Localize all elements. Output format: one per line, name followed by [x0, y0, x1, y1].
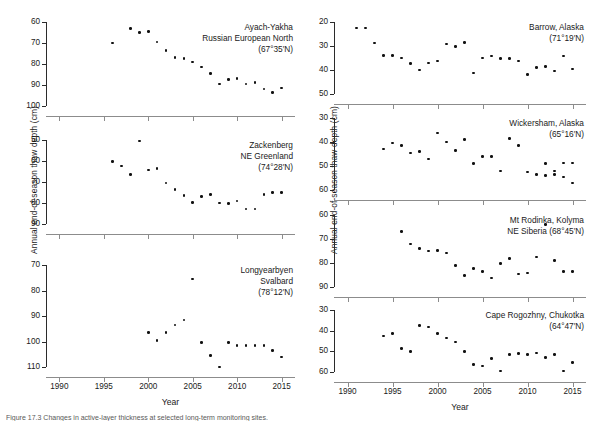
- data-point: [481, 57, 484, 60]
- data-point: [200, 341, 203, 344]
- y-tick-label-longyearbyen-100: 100: [26, 337, 40, 345]
- panel-title-line-longyearbyen-1: Longyearbyen: [240, 265, 293, 276]
- data-point: [263, 193, 266, 196]
- plot-area-cape-rogozhny: 30405060199019952000200520102015Cape Rog…: [334, 310, 586, 372]
- data-point: [544, 223, 547, 226]
- x-tick-barrow-1995: [393, 105, 394, 109]
- data-point: [218, 366, 221, 369]
- data-point: [236, 344, 239, 347]
- data-point: [499, 57, 502, 60]
- x-axis-spine-ayach-yakha: [46, 116, 295, 117]
- data-point: [382, 54, 385, 57]
- data-point: [517, 144, 520, 147]
- data-point: [391, 332, 394, 335]
- data-point: [454, 149, 457, 152]
- y-tick-mt-rodinka-90: [330, 287, 334, 288]
- data-point: [571, 270, 574, 273]
- y-tick-label-longyearbyen-90: 90: [31, 312, 40, 320]
- data-point: [409, 62, 412, 65]
- y-axis-spine-ayach-yakha: [46, 22, 47, 106]
- data-point: [445, 43, 448, 46]
- data-point: [138, 140, 141, 143]
- y-tick-longyearbyen-70: [42, 265, 46, 266]
- data-point: [427, 158, 430, 161]
- y-tick-longyearbyen-100: [42, 342, 46, 343]
- y-tick-ayach-yakha-60: [42, 22, 46, 23]
- data-point: [156, 41, 159, 44]
- data-point: [490, 277, 493, 280]
- data-point: [562, 55, 565, 58]
- x-tick-ayach-yakha-1990: [59, 117, 60, 121]
- x-tick-label-cape-rogozhny-2010: 2010: [518, 388, 536, 396]
- data-point: [227, 202, 230, 205]
- y-tick-barrow-50: [330, 94, 334, 95]
- y-tick-longyearbyen-90: [42, 316, 46, 317]
- x-tick-zackenberg-2015: [282, 235, 283, 239]
- data-point: [562, 270, 565, 273]
- data-point: [463, 138, 466, 141]
- data-point: [508, 57, 511, 60]
- data-point: [174, 188, 177, 191]
- y-tick-label-longyearbyen-80: 80: [31, 286, 40, 294]
- data-point: [508, 353, 511, 356]
- panel-title-line-wickersham-2: (65°16′N): [509, 129, 584, 140]
- y-tick-label-zackenberg-90: 90: [31, 220, 40, 228]
- x-axis-spine-longyearbyen: [46, 377, 295, 378]
- plot-area-ayach-yakha: 60708090100Ayach-YakhaRussian European N…: [46, 22, 295, 106]
- y-tick-barrow-20: [330, 22, 334, 23]
- panel-title-wickersham: Wickersham, Alaska(65°16′N): [509, 118, 584, 140]
- x-tick-mt-rodinka-2000: [438, 298, 439, 302]
- x-tick-mt-rodinka-2005: [483, 298, 484, 302]
- data-point: [427, 250, 430, 253]
- y-tick-label-wickersham-60: 60: [319, 186, 328, 194]
- y-tick-wickersham-60: [330, 190, 334, 191]
- data-point: [472, 72, 475, 75]
- y-tick-label-cape-rogozhny-60: 60: [319, 368, 328, 376]
- x-tick-wickersham-2010: [528, 201, 529, 205]
- x-tick-label-cape-rogozhny-2015: 2015: [563, 388, 581, 396]
- y-tick-label-barrow-30: 30: [319, 42, 328, 50]
- x-tick-zackenberg-2000: [148, 235, 149, 239]
- x-tick-mt-rodinka-2015: [573, 298, 574, 302]
- y-axis-spine-mt-rodinka: [334, 215, 335, 287]
- data-point: [436, 332, 439, 335]
- x-tick-wickersham-1990: [348, 201, 349, 205]
- y-tick-label-mt-rodinka-80: 80: [319, 259, 328, 267]
- y-tick-label-mt-rodinka-60: 60: [319, 211, 328, 219]
- data-point: [418, 150, 421, 153]
- data-point: [499, 262, 502, 265]
- data-point: [571, 68, 574, 71]
- panel-ayach-yakha: 60708090100Ayach-YakhaRussian European N…: [46, 22, 295, 106]
- y-tick-label-longyearbyen-110: 110: [27, 363, 40, 371]
- data-point: [553, 173, 556, 176]
- y-tick-cape-rogozhny-30: [330, 310, 334, 311]
- data-point: [263, 88, 266, 91]
- data-point: [138, 31, 141, 34]
- x-tick-ayach-yakha-2005: [193, 117, 194, 121]
- data-point: [499, 170, 502, 173]
- data-point: [526, 353, 529, 356]
- data-point: [562, 162, 565, 165]
- plot-area-zackenberg: 5060708090ZackenbergNE Greenland(74°28′N…: [46, 140, 295, 224]
- x-tick-label-longyearbyen-2005: 2005: [184, 383, 202, 391]
- data-point: [245, 208, 248, 211]
- data-point: [165, 49, 168, 52]
- data-point: [418, 324, 421, 327]
- panel-title-mt-rodinka: Mt Rodinka, KolymaNE Siberia (68°45′N): [507, 215, 584, 237]
- data-point: [156, 339, 159, 342]
- data-point: [481, 365, 484, 368]
- x-tick-wickersham-1995: [393, 201, 394, 205]
- data-point: [129, 27, 132, 30]
- y-tick-label-zackenberg-50: 50: [31, 136, 40, 144]
- data-point: [156, 167, 159, 170]
- y-tick-label-ayach-yakha-70: 70: [31, 39, 40, 47]
- data-point: [400, 57, 403, 60]
- x-tick-wickersham-2005: [483, 201, 484, 205]
- data-point: [427, 326, 430, 329]
- data-point: [526, 73, 529, 76]
- data-point: [111, 42, 114, 45]
- data-point: [236, 200, 239, 203]
- data-point: [463, 350, 466, 353]
- panel-barrow: 20304050Barrow, Alaska(71°19′N): [334, 22, 586, 94]
- y-tick-zackenberg-90: [42, 224, 46, 225]
